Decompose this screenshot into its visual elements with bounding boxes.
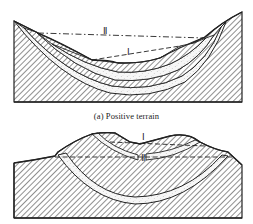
panel-a-caption: (a) Positive terrain [0,111,253,121]
panel-a-cross-section: Ⅱ Ⅰ [14,12,242,102]
panel-b-cross-section: Ⅰ Ⅱ [14,132,242,218]
panel-a-label-II: Ⅱ [103,26,107,36]
panel-a-label-I: Ⅰ [127,47,130,57]
panel-b-label-I: Ⅰ [142,132,145,142]
panel-b-label-II: Ⅱ [141,153,145,163]
panel-a-line-II [38,33,205,38]
